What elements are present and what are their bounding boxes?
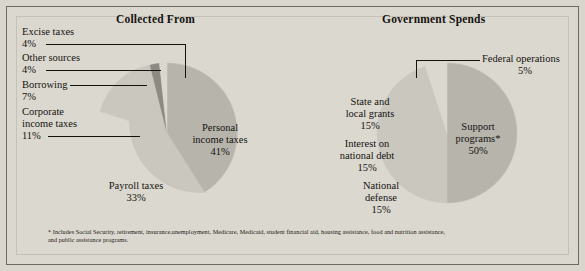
- label-interest-on-national-debt-name-1: Interest on: [322, 138, 412, 150]
- label-personal-income-taxes-name-2: income taxes: [180, 134, 260, 146]
- label-payroll-taxes-name: Payroll taxes: [98, 180, 174, 192]
- label-borrowing-name: Borrowing: [22, 79, 68, 91]
- leader-line-other-sources: [46, 70, 161, 71]
- leader-line-corporate-income-taxes: [48, 136, 140, 137]
- label-support-programs-pct: 50%: [440, 145, 516, 157]
- leader-line-excise-taxes-vertical: [185, 44, 186, 78]
- label-national-defense-name-2: defense: [340, 192, 422, 204]
- label-borrowing-pct: 7%: [22, 91, 36, 103]
- label-state-and-local-grants-name-2: local grants: [328, 108, 412, 120]
- figure-canvas: Collected From Government Spends: [0, 0, 585, 271]
- panel-title-collected-from: Collected From: [116, 13, 195, 25]
- leader-line-borrowing: [70, 85, 147, 86]
- label-excise-taxes-name: Excise taxes: [22, 26, 74, 38]
- label-national-defense-name-1: National: [340, 180, 422, 192]
- label-other-sources-pct: 4%: [22, 64, 36, 76]
- footnote-marker: *: [48, 228, 51, 235]
- label-payroll-taxes-pct: 33%: [98, 192, 174, 204]
- label-federal-operations-pct: 5%: [438, 65, 532, 77]
- leader-line-federal-operations-vertical: [416, 60, 417, 78]
- leader-line-federal-operations: [416, 60, 480, 61]
- label-national-defense-pct: 15%: [340, 204, 422, 216]
- panel-title-government-spends: Government Spends: [382, 13, 485, 25]
- label-personal-income-taxes-name-1: Personal: [180, 122, 260, 134]
- label-personal-income-taxes-pct: 41%: [180, 146, 260, 158]
- label-excise-taxes-pct: 4%: [22, 38, 36, 50]
- leader-line-excise-taxes: [46, 44, 186, 45]
- label-support-programs-name-1: Support: [440, 121, 516, 133]
- label-interest-on-national-debt-pct: 15%: [322, 162, 412, 174]
- label-support-programs-name-2: programs*: [440, 133, 516, 145]
- label-other-sources-name: Other sources: [22, 52, 80, 64]
- label-corporate-income-taxes-pct: 11%: [22, 130, 41, 142]
- label-interest-on-national-debt-name-2: national debt: [322, 150, 412, 162]
- label-state-and-local-grants-name-1: State and: [328, 96, 412, 108]
- label-corporate-income-taxes-name-2: income taxes: [22, 118, 77, 130]
- footnote-line-1: Includes Social Security, retirement, in…: [53, 228, 445, 235]
- label-corporate-income-taxes-name-1: Corporate: [22, 106, 64, 118]
- footnote-line-2: and public assistance programs.: [48, 236, 445, 244]
- footnote: * Includes Social Security, retirement, …: [48, 228, 445, 245]
- label-federal-operations-name: Federal operations: [482, 53, 560, 65]
- label-state-and-local-grants-pct: 15%: [328, 120, 412, 132]
